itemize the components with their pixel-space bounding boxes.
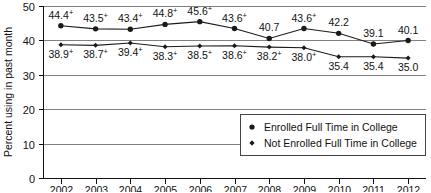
x-tick-label-2010: 2010: [328, 184, 352, 193]
significance-marker: +: [69, 8, 74, 17]
data-label-2003: 43.5+: [83, 11, 108, 24]
data-point-2003: [93, 43, 98, 48]
data-point-2004: [128, 27, 133, 32]
data-point-2004: [128, 40, 133, 45]
significance-marker: +: [312, 50, 317, 59]
line-chart: 50 40 30 20 10 0 Percent using in past m…: [0, 0, 431, 192]
data-point-2007: [232, 26, 237, 31]
data-point-2005: [163, 44, 168, 49]
data-label-2006: 38.5+: [187, 48, 212, 61]
significance-marker: +: [138, 11, 143, 20]
significance-marker: +: [173, 6, 178, 15]
data-point-2009: [301, 45, 306, 50]
legend-item-not-enrolled[interactable]: Not Enrolled Full Time in College: [249, 137, 417, 149]
significance-marker: +: [312, 11, 317, 20]
significance-marker: +: [243, 11, 248, 20]
legend-item-enrolled[interactable]: Enrolled Full Time in College: [249, 121, 397, 133]
data-label-2012: 35.0: [398, 61, 419, 73]
data-label-2004: 39.4+: [118, 45, 143, 58]
x-tick-label-2007: 2007: [224, 184, 248, 193]
y-tick-label-30: 30: [23, 70, 35, 82]
data-point-2010: [336, 54, 341, 59]
data-label-2008: 38.2+: [257, 49, 282, 62]
significance-marker: +: [138, 45, 143, 54]
data-point-2006: [197, 19, 202, 24]
data-point-2011: [371, 41, 376, 46]
data-point-2006: [197, 44, 202, 49]
series-data-labels-not-enrolled: 38.9+38.7+39.4+38.3+38.5+38.6+38.2+38.0+…: [48, 45, 418, 73]
data-point-2003: [93, 26, 98, 31]
data-label-2002: 44.4+: [48, 8, 73, 21]
data-point-2008: [267, 45, 272, 50]
data-point-2010: [336, 31, 341, 36]
x-tick-label-2004: 2004: [119, 184, 143, 193]
data-label-2006: 45.6+: [187, 4, 212, 17]
data-label-2007: 38.6+: [222, 48, 247, 61]
series-data-labels-enrolled: 44.4+43.5+43.4+44.8+45.6+43.6+40.743.6+4…: [48, 4, 418, 39]
x-tick-label-2002: 2002: [50, 184, 74, 193]
data-point-2002: [58, 42, 63, 47]
data-label-2009: 38.0+: [292, 50, 317, 63]
data-label-2008: 40.7: [259, 21, 280, 33]
x-tick-label-2012: 2012: [397, 184, 421, 193]
data-point-2007: [232, 43, 237, 48]
y-tick-label-0: 0: [29, 173, 35, 185]
y-tick-label-50: 50: [23, 1, 35, 13]
x-tick-label-2003: 2003: [85, 184, 109, 193]
significance-marker: +: [277, 49, 282, 58]
x-tick-label-2008: 2008: [258, 184, 282, 193]
data-label-2010: 35.4: [328, 60, 349, 72]
data-point-2012: [405, 38, 410, 43]
data-label-2012: 40.1: [398, 24, 419, 36]
legend-label-not-enrolled: Not Enrolled Full Time in College: [264, 137, 417, 149]
data-point-2002: [58, 23, 63, 28]
data-label-2004: 43.4+: [118, 11, 143, 24]
legend: Enrolled Full Time in College Not Enroll…: [241, 115, 426, 156]
y-axis-title: Percent using in past month: [2, 27, 14, 157]
significance-marker: +: [208, 48, 213, 57]
chart-canvas: 50 40 30 20 10 0 Percent using in past m…: [0, 0, 431, 192]
x-tick-label-2009: 2009: [293, 184, 317, 193]
data-point-2011: [371, 54, 376, 59]
data-point-2005: [162, 22, 167, 27]
x-tick-label-2006: 2006: [189, 184, 213, 193]
significance-marker: +: [208, 4, 213, 13]
significance-marker: +: [173, 49, 178, 58]
x-tick-label-2011: 2011: [362, 184, 385, 193]
y-tick-label-10: 10: [23, 139, 35, 151]
y-tick-labels: 50 40 30 20 10 0: [23, 1, 35, 185]
data-label-2003: 38.7+: [83, 47, 108, 60]
data-label-2010: 42.2: [328, 16, 349, 28]
data-label-2011: 39.1: [363, 27, 384, 39]
significance-marker: +: [69, 47, 74, 56]
x-tick-labels: 2002200320042005200620072008200920102011…: [50, 184, 421, 193]
significance-marker: +: [243, 48, 248, 57]
data-label-2005: 44.8+: [153, 6, 178, 19]
data-label-2009: 43.6+: [292, 11, 317, 24]
data-label-2011: 35.4: [363, 60, 384, 72]
data-point-2009: [301, 26, 306, 31]
legend-label-enrolled: Enrolled Full Time in College: [264, 121, 398, 133]
data-label-2005: 38.3+: [153, 49, 178, 62]
x-tick-label-2005: 2005: [154, 184, 178, 193]
data-label-2007: 43.6+: [222, 11, 247, 24]
data-point-2008: [267, 36, 272, 41]
significance-marker: +: [104, 47, 109, 56]
data-point-2012: [406, 56, 411, 61]
significance-marker: +: [104, 11, 109, 20]
y-tick-label-40: 40: [23, 35, 35, 47]
y-tick-label-20: 20: [23, 104, 35, 116]
y-tick-marks: [39, 7, 44, 179]
legend-marker-filled-circle-icon: [249, 124, 254, 129]
data-label-2002: 38.9+: [48, 47, 73, 60]
